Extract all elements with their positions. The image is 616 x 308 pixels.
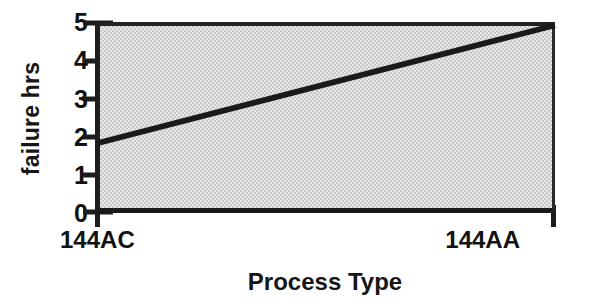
plot-area: [95, 22, 555, 213]
chart-figure: failure hrs 5 4 3 2 1 0 144AC 144AA Proc…: [0, 0, 616, 308]
x-category-label-right: 144AA: [445, 228, 520, 252]
plot-inner: [100, 26, 552, 208]
data-series-line: [100, 26, 552, 208]
series-polyline: [100, 26, 552, 142]
x-axis-title: Process Type: [95, 268, 555, 296]
x-category-label-left: 144AC: [60, 228, 135, 252]
